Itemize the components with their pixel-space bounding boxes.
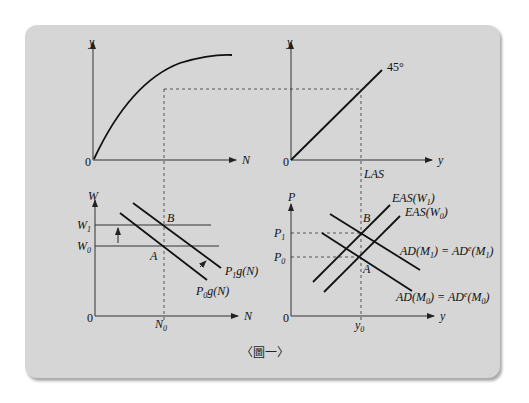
las-label: LAS [363,167,384,181]
axis-label-P: P [287,190,296,204]
labor-market-panel: W N 0 W1 W0 N0 B A P1g(N) P0g(N) [77,189,258,333]
45-degree-label: 45° [387,60,404,74]
point-A: A [149,249,158,263]
point-B: B [363,211,371,225]
tick-label-W1: W1 [77,218,91,234]
origin-label: 0 [87,311,93,325]
tick-label-W0: W0 [77,239,91,255]
origin-label: 0 [283,155,289,169]
axis-label-y: y [286,35,293,49]
point-A: A [362,262,371,276]
curve-label-eas-w0: EAS(W0) [404,205,448,221]
axis-label-N: N [241,153,251,167]
curve-label-P0g: P0g(N) [195,284,229,300]
axis-label-y: y [88,35,95,49]
curve-label-P1g: P1g(N) [224,264,258,280]
origin-label: 0 [85,155,91,169]
tick-label-y0: y0 [354,318,364,334]
45-degree-panel: y y 0 45° LAS [283,35,444,320]
axis-label-y: y [439,309,446,323]
axis-label-W: W [88,189,99,203]
axis-label-N: N [243,309,253,323]
tick-label-N0: N0 [154,317,167,333]
origin-label: 0 [283,311,289,325]
tick-label-P1: P1 [273,226,285,242]
point-B: B [167,211,175,225]
production-function-panel: y N 0 [85,35,361,320]
axis-label-y-horizontal: y [437,153,444,167]
curve-label-ad-m0: AD(M0) = ADe(M0) [395,290,489,306]
curve-label-ad-m1: AD(M1) = ADe(M1) [399,244,493,260]
figure-caption: 〈圖一〉 [0,343,529,360]
tick-label-P0: P0 [273,250,285,266]
ad-as-panel: P y 0 P1 P0 y0 B A EAS(W1) EAS(W0) AD(M1… [273,190,493,334]
